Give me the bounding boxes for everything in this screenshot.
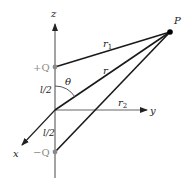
r-line (55, 32, 170, 110)
point-p-label: P (173, 15, 181, 26)
dipole-diagram: z y x r1 r r2 θ l/2 l/2 +Q −Q P (0, 0, 186, 182)
y-axis-label: y (149, 105, 156, 116)
z-axis-label: z (50, 8, 57, 19)
r2-label: r2 (118, 97, 127, 110)
x-axis-label: x (13, 148, 19, 159)
negative-charge-dot (53, 150, 58, 155)
half-separation-upper-label: l/2 (40, 85, 52, 95)
theta-arc (55, 86, 75, 97)
r1-label: r1 (103, 38, 112, 51)
positive-charge-dot (53, 65, 58, 70)
point-p-dot (167, 29, 173, 35)
positive-charge-label: +Q (33, 62, 50, 73)
negative-charge-label: −Q (33, 147, 50, 158)
half-separation-lower-label: l/2 (43, 128, 55, 138)
theta-label: θ (65, 76, 71, 87)
